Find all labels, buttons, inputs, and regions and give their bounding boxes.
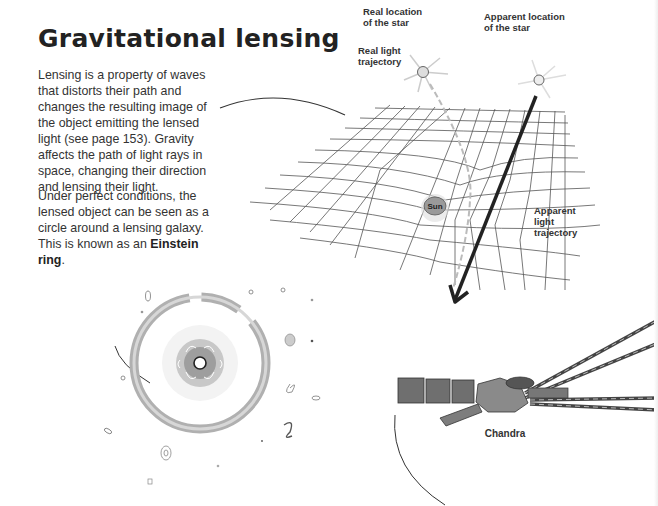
- connector-arc: [220, 98, 345, 115]
- apparent-star: [518, 60, 566, 98]
- chandra-telescope: [398, 320, 658, 426]
- label-apparent-trajectory: Apparent light trajectory: [534, 205, 577, 238]
- illustrations: Sun: [0, 0, 658, 506]
- chandra-label: Chandra: [485, 428, 526, 439]
- sun-label: Sun: [427, 202, 442, 211]
- chandra-connector-arc: [395, 415, 445, 505]
- page-edge-shadow: [654, 0, 658, 506]
- label-real-trajectory: Real light trajectory: [358, 45, 401, 67]
- real-star: [404, 55, 448, 92]
- spacetime-grid: [250, 105, 600, 290]
- apparent-light-trajectory: [455, 96, 536, 300]
- einstein-ring-illustration: [104, 288, 320, 484]
- label-apparent-location: Apparent location of the star: [484, 11, 565, 33]
- label-real-location: Real location of the star: [363, 6, 422, 28]
